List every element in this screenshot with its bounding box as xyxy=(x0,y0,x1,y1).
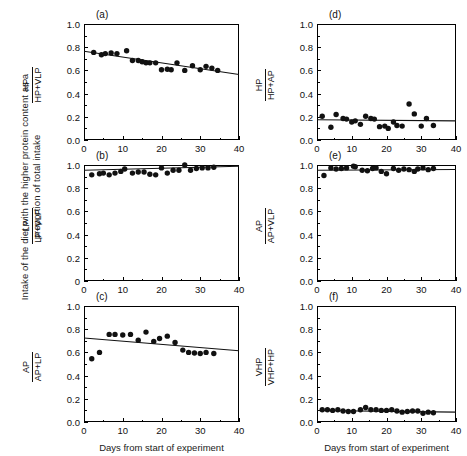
data-point xyxy=(420,411,425,416)
data-point xyxy=(373,407,378,412)
data-point xyxy=(358,407,363,412)
panel-f: (f)0.00.20.40.60.81.0010203040VHPVHP+HPD… xyxy=(0,0,467,456)
data-point xyxy=(405,409,410,414)
data-point xyxy=(325,407,330,412)
data-point xyxy=(379,408,384,413)
y-tick-label: 0.4 xyxy=(283,370,313,381)
data-point xyxy=(363,405,368,410)
data-point xyxy=(320,407,325,412)
x-tick-label: 0 xyxy=(314,425,319,436)
y-label-numerator: VHP xyxy=(254,348,265,386)
x-axis-label: Days from start of experiment xyxy=(317,442,456,453)
data-point xyxy=(335,407,340,412)
panel-y-axis-label: VHPVHP+HP xyxy=(254,337,276,397)
data-point xyxy=(410,408,415,413)
y-tick-label: 0.6 xyxy=(283,347,313,358)
data-point xyxy=(415,408,420,413)
data-point xyxy=(346,409,351,414)
x-tick-mark xyxy=(456,418,457,422)
data-point xyxy=(368,407,373,412)
y-tick-label: 0.0 xyxy=(283,417,313,428)
panel-label: (f) xyxy=(329,291,338,302)
y-tick-label: 0.8 xyxy=(283,324,313,335)
x-tick-label: 40 xyxy=(451,425,462,436)
x-tick-label: 10 xyxy=(346,425,357,436)
data-point xyxy=(384,408,389,413)
figure-root: Intake of the diet with the higher prote… xyxy=(0,0,467,456)
data-point xyxy=(340,408,345,413)
y-tick-label: 1.0 xyxy=(283,301,313,312)
y-tick-mark xyxy=(317,422,321,423)
data-point xyxy=(351,409,356,414)
data-point xyxy=(389,407,394,412)
x-tick-label: 20 xyxy=(381,425,392,436)
data-point xyxy=(431,410,436,415)
y-tick-label: 0.2 xyxy=(283,393,313,404)
data-point xyxy=(394,408,399,413)
x-tick-label: 30 xyxy=(416,425,427,436)
y-label-denominator: VHP+HP xyxy=(265,348,277,386)
data-point xyxy=(399,409,404,414)
scatter-canvas xyxy=(317,306,456,422)
data-point xyxy=(426,409,431,414)
data-point xyxy=(330,408,335,413)
